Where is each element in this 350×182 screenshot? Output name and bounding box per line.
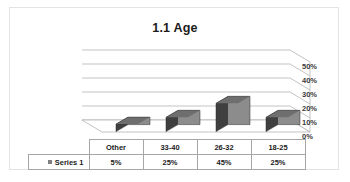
legend-swatch-icon <box>48 160 52 164</box>
y-tick-30: 30% <box>302 90 317 99</box>
y-tick-20: 20% <box>302 104 317 113</box>
chart-data-table: Other 33-40 26-32 18-25 Series 1 5% 25% … <box>28 139 306 170</box>
value-other: 5% <box>89 155 143 170</box>
category-header-other: Other <box>89 140 143 155</box>
legend-series1: Series 1 <box>29 155 90 170</box>
table-row-series1: Series 1 5% 25% 45% 25% <box>29 155 306 170</box>
value-33-40: 25% <box>143 155 197 170</box>
category-header-33-40: 33-40 <box>143 140 197 155</box>
legend-series1-label: Series 1 <box>55 158 84 167</box>
chart-title: 1.1 Age <box>10 21 340 35</box>
value-26-32: 45% <box>197 155 251 170</box>
table-row-categories: Other 33-40 26-32 18-25 <box>29 140 306 155</box>
table-corner-cell <box>29 140 90 155</box>
y-tick-50: 50% <box>302 62 317 71</box>
y-tick-40: 40% <box>302 76 317 85</box>
chart-frame: 1.1 Age <box>9 7 339 170</box>
gridlines <box>82 50 290 120</box>
value-18-25: 25% <box>251 155 305 170</box>
plot-3d-svg <box>62 46 340 138</box>
category-header-26-32: 26-32 <box>197 140 251 155</box>
y-axis-labels: 50% 40% 30% 20% 10% 0% <box>302 55 342 145</box>
plot-area <box>62 46 340 138</box>
y-tick-10: 10% <box>302 118 317 127</box>
category-header-18-25: 18-25 <box>251 140 305 155</box>
chart-screenshot: 1.1 Age <box>0 0 350 182</box>
